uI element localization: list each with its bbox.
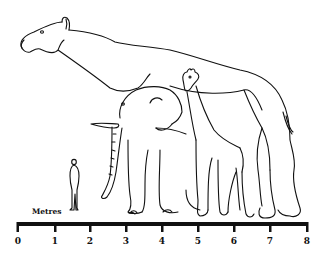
elephant-outline bbox=[91, 87, 200, 214]
scale-title: Metres bbox=[32, 207, 61, 216]
tick-label-7: 7 bbox=[267, 236, 273, 246]
tick-label-2: 2 bbox=[87, 236, 93, 246]
tick-label-5: 5 bbox=[195, 236, 201, 246]
tick-label-1: 1 bbox=[52, 236, 58, 246]
tick-label-4: 4 bbox=[159, 236, 165, 246]
human-figure bbox=[70, 159, 79, 210]
tick-label-6: 6 bbox=[231, 236, 237, 246]
size-comparison-drawing bbox=[0, 0, 325, 256]
indricotherium-outline bbox=[21, 17, 301, 218]
tick-label-8: 8 bbox=[304, 236, 310, 246]
tick-label-3: 3 bbox=[123, 236, 129, 246]
tick-label-0: 0 bbox=[15, 236, 21, 246]
metre-scale-bar bbox=[17, 222, 309, 232]
